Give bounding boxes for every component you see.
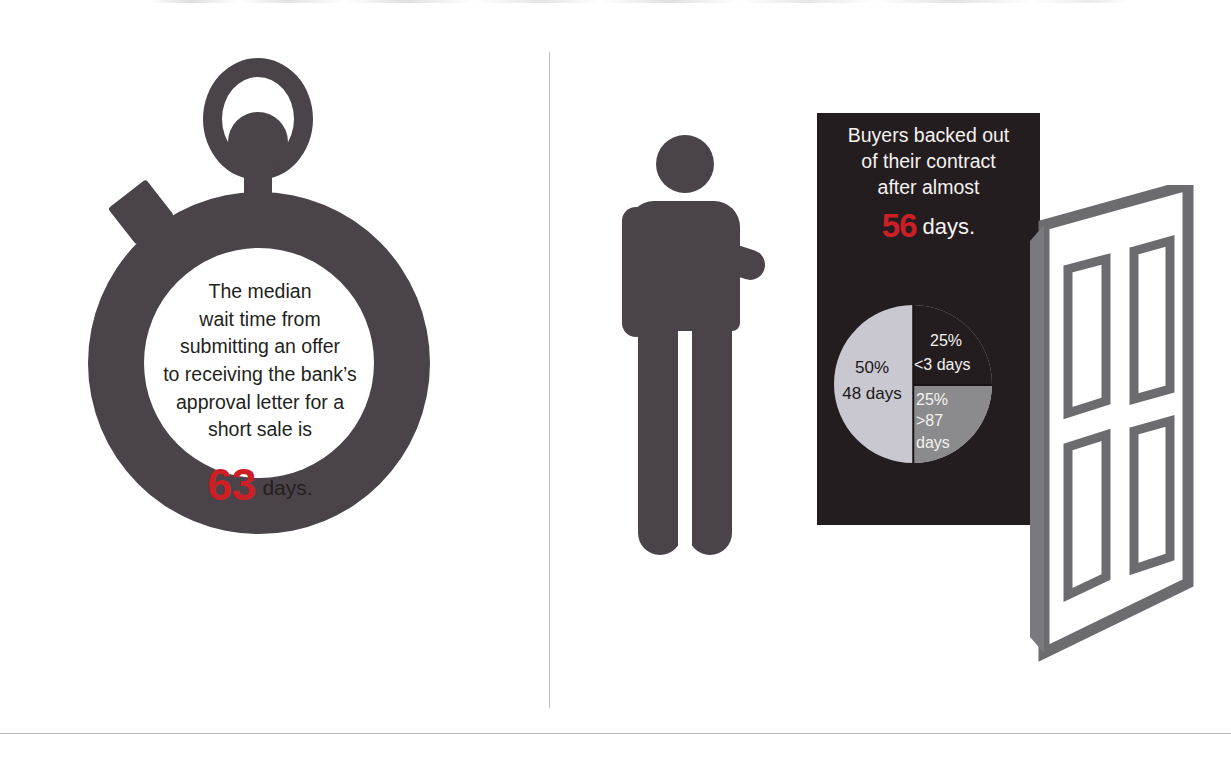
- scan-artifact-top: [150, 0, 1130, 3]
- buyers-backed-out-panel: Buyers backed out of their contract afte…: [817, 113, 1040, 525]
- pie-label-48-days: 50% 48 days: [832, 355, 912, 406]
- stopwatch-line-1: The median: [150, 278, 370, 306]
- panel-headline: Buyers backed out of their contract afte…: [817, 123, 1040, 248]
- door-panel-lower-right: [1134, 421, 1170, 569]
- stopwatch-text-block: The median wait time from submitting an …: [150, 278, 370, 517]
- person-leg-gap: [678, 331, 692, 557]
- pie-label-48-days-percent: 50%: [832, 355, 912, 381]
- person-left-leg-icon: [638, 315, 682, 555]
- stopwatch-line-2: wait time from: [150, 306, 370, 334]
- panel-line-2: of their contract: [817, 149, 1040, 175]
- pie-label-under-3-days: 25% <3 days: [914, 329, 1006, 377]
- person-head-icon: [656, 135, 714, 193]
- pie-label-over-87-days-percent: 25%: [916, 389, 996, 410]
- door-panel-lower-left: [1068, 435, 1106, 595]
- door-panel-upper-right: [1134, 241, 1170, 399]
- panel-stat-number: 56: [882, 207, 917, 244]
- pie-label-over-87-days-detail: >87: [916, 410, 996, 431]
- infographic-page: The median wait time from submitting an …: [0, 0, 1231, 761]
- pie-label-over-87-days-detail-2: days: [916, 432, 996, 453]
- footer-rule: [0, 733, 1231, 734]
- open-door-icon: [1030, 185, 1210, 675]
- panel-stat-unit: days.: [923, 214, 976, 239]
- contract-backout-pie-chart: 50% 48 days 25% <3 days 25% >87 days: [834, 305, 992, 463]
- stopwatch-stat-number: 63: [207, 459, 255, 510]
- stopwatch-stat-unit: days.: [262, 476, 312, 499]
- panel-stat: 56days.: [817, 204, 1040, 248]
- stopwatch-line-4: to receiving the bank’s: [150, 361, 370, 389]
- vertical-divider: [549, 52, 550, 708]
- pie-label-48-days-detail: 48 days: [832, 381, 912, 407]
- stopwatch-crown-knob-icon: [228, 112, 288, 172]
- panel-line-1: Buyers backed out: [817, 123, 1040, 149]
- person-right-leg-icon: [688, 315, 732, 555]
- pie-divider-horizontal: [913, 384, 992, 386]
- stopwatch-line-6: short sale is: [150, 416, 370, 444]
- stopwatch-line-3: submitting an offer: [150, 333, 370, 361]
- pie-label-under-3-days-detail: <3 days: [914, 353, 1006, 377]
- stopwatch-line-5: approval letter for a: [150, 389, 370, 417]
- pie-label-under-3-days-percent: 25%: [914, 329, 1006, 353]
- stopwatch-stat: 63days.: [150, 453, 370, 517]
- panel-line-3: after almost: [817, 175, 1040, 201]
- door-panel-upper-left: [1068, 259, 1106, 413]
- stopwatch-icon: The median wait time from submitting an …: [0, 40, 549, 680]
- person-icon: [618, 135, 778, 565]
- pie-label-over-87-days: 25% >87 days: [916, 389, 996, 453]
- door-edge-shadow: [1030, 225, 1044, 653]
